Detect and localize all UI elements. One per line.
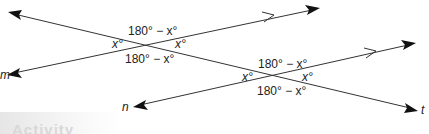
transversal-line-t (14, 14, 410, 108)
arrowhead-n-right-icon (401, 40, 416, 50)
label-t: t (421, 103, 425, 117)
arrowhead-n-left-icon (133, 100, 148, 110)
angle-2-right: x° (301, 70, 313, 84)
arrowhead-m-right-icon (305, 5, 320, 15)
angle-2-top: 180° − x° (258, 57, 307, 71)
angle-1-top: 180° − x° (128, 24, 177, 38)
angle-2-bottom: 180° − x° (257, 84, 306, 98)
activity-heading: Activity (12, 122, 74, 134)
arrowhead-t-right-icon (404, 103, 418, 113)
label-m: m (0, 68, 10, 82)
angle-1-right: x° (174, 37, 186, 51)
angle-1-bottom: 180° − x° (125, 52, 174, 66)
angle-2-left: x° (241, 70, 253, 84)
label-n: n (122, 100, 129, 114)
angle-1-left: x° (111, 37, 123, 51)
